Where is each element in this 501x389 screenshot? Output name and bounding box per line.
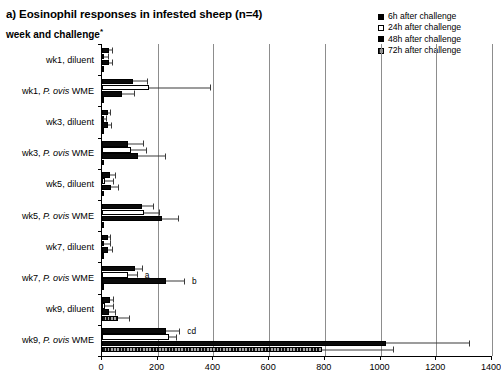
error-bar (108, 237, 111, 238)
y-axis-title-text: week and challenge (6, 29, 100, 40)
error-bar (110, 299, 113, 300)
chart-bar (102, 334, 169, 340)
error-bar (105, 181, 113, 182)
chart-bar (102, 97, 104, 103)
error-bar (118, 318, 131, 319)
error-bar (128, 274, 138, 275)
x-axis-tick-label: 1400 (481, 362, 501, 372)
chart-bar (102, 153, 138, 159)
error-bar (108, 249, 112, 250)
error-bar (169, 337, 177, 338)
error-bar (109, 50, 113, 51)
error-bar-cap (110, 241, 111, 247)
chart-bar (102, 210, 144, 216)
error-bar-cap (115, 172, 116, 178)
chart-category-row: wk7, diluent (102, 231, 492, 262)
chart-category-row: wk3, diluent (102, 106, 492, 137)
error-bar-cap (115, 309, 116, 315)
chart-category-row: wk3, P. ovis WME (102, 138, 492, 169)
y-axis-category-label: wk7, P. ovis WME (22, 273, 94, 283)
y-axis-title-marker: * (100, 27, 103, 36)
legend-label-24h: 24h after challenge (388, 22, 461, 33)
error-bar-cap (113, 297, 114, 303)
error-bar-cap (210, 85, 211, 91)
y-axis-tick (98, 231, 102, 232)
error-bar (142, 206, 155, 207)
chart-bar (102, 172, 110, 178)
chart-bar (102, 266, 135, 272)
y-axis-tick (98, 44, 102, 45)
legend-label-6h: 6h after challenge (388, 11, 456, 22)
error-bar-cap (134, 91, 135, 97)
error-bar (105, 306, 114, 307)
x-axis-tick-label: 600 (261, 362, 276, 372)
chart-bar (102, 60, 109, 66)
error-bar-cap (146, 147, 147, 153)
error-bar (386, 343, 470, 344)
chart-bar (102, 297, 110, 303)
error-bar (162, 218, 179, 219)
x-axis-tick-label: 200 (149, 362, 164, 372)
error-bar-cap (159, 210, 160, 216)
chart-annotation: b (192, 276, 197, 286)
chart-category-row: wk5, diluent (102, 169, 492, 200)
y-axis-category-label: wk1, diluent (46, 55, 94, 65)
chart-annotation: cd (187, 326, 196, 336)
error-bar-cap (112, 60, 113, 66)
error-bar-cap (129, 315, 130, 321)
chart-bar (102, 316, 118, 322)
error-bar-cap (111, 122, 112, 128)
error-bar-cap (147, 78, 148, 84)
chart-bar (102, 160, 104, 166)
error-bar-cap (112, 247, 113, 253)
chart-bar (102, 191, 104, 197)
error-bar (133, 81, 147, 82)
error-bar-cap (113, 178, 114, 184)
legend-swatch-6h-icon (378, 14, 384, 20)
error-bar-cap (153, 203, 154, 209)
legend-item-24h: 24h after challenge (378, 22, 461, 33)
error-bar-cap (469, 340, 470, 346)
legend-swatch-24h-icon (378, 25, 384, 31)
error-bar-cap (143, 141, 144, 147)
plot-area: wk1, diluentwk1, P. ovis WMEwk3, diluent… (101, 44, 492, 356)
error-bar (104, 243, 111, 244)
chart-category-row: wk9, diluent (102, 294, 492, 325)
x-axis-tick-label: 800 (316, 362, 331, 372)
chart-bar (102, 347, 322, 353)
error-bar-cap (178, 216, 179, 222)
x-axis-tick (101, 356, 102, 360)
chart-bar (102, 222, 104, 228)
error-bar-cap (142, 266, 143, 272)
chart-bar (102, 128, 104, 134)
x-axis-tick (380, 356, 381, 360)
x-axis-tick (157, 356, 158, 360)
error-bar-cap (137, 272, 138, 278)
y-axis-category-label: wk3, P. ovis WME (22, 148, 94, 158)
error-bar-cap (176, 334, 177, 340)
error-bar (108, 112, 111, 113)
error-bar (144, 212, 160, 213)
x-axis-tick-label: 400 (205, 362, 220, 372)
x-axis: 0200400600800100012001400 (101, 356, 491, 386)
error-bar (109, 312, 117, 313)
chart-bar (102, 341, 386, 347)
error-bar (128, 143, 143, 144)
y-axis-tick (98, 200, 102, 201)
y-axis-tick (98, 294, 102, 295)
chart-bar (102, 91, 122, 97)
chart-category-row: wk5, P. ovis WME (102, 200, 492, 231)
error-bar (322, 349, 394, 350)
chart-bar (102, 79, 133, 85)
error-bar-cap (165, 153, 166, 159)
error-bar (108, 125, 111, 126)
y-axis-category-label: wk5, diluent (46, 179, 94, 189)
chart-bar (102, 309, 109, 315)
x-axis-tick (435, 356, 436, 360)
chart-bar (102, 66, 104, 72)
y-axis-tick (98, 106, 102, 107)
y-axis-tick (98, 75, 102, 76)
error-bar-cap (112, 47, 113, 53)
x-axis-tick-label: 1200 (425, 362, 445, 372)
error-bar-cap (110, 110, 111, 116)
